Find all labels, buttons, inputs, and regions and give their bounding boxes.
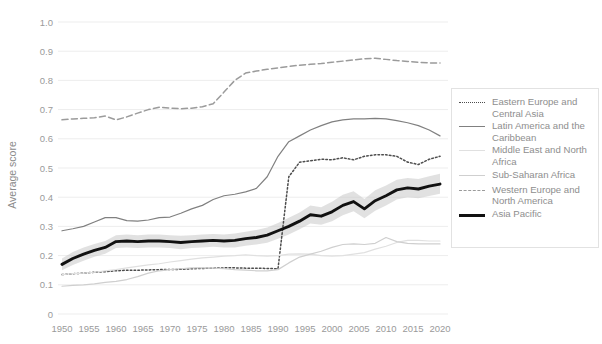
chart-container: 00.10.20.30.40.50.60.70.80.91.0 19501955… bbox=[0, 0, 602, 344]
legend-item-label: Middle East and North Africa bbox=[492, 144, 592, 167]
x-tick-label: 2020 bbox=[429, 323, 450, 334]
y-tick-label: 0.6 bbox=[40, 133, 53, 144]
y-tick-label: 0.9 bbox=[40, 46, 53, 57]
series-line-eastern-europe-and-central-asia bbox=[62, 155, 440, 275]
y-tick-label: 0.7 bbox=[40, 104, 53, 115]
legend-item[interactable]: Western Europe and North America bbox=[452, 184, 598, 207]
legend-item-label: Sub-Saharan Africa bbox=[492, 169, 592, 181]
data-series-group bbox=[62, 58, 440, 286]
legend-swatch-icon bbox=[459, 96, 485, 110]
y-tick-label: 0 bbox=[48, 309, 53, 320]
x-tick-label: 2010 bbox=[375, 323, 396, 334]
x-tick-label: 1970 bbox=[159, 323, 180, 334]
x-tick-label: 1960 bbox=[105, 323, 126, 334]
legend-item-label: Latin America and the Caribbean bbox=[492, 120, 592, 143]
legend-list: Eastern Europe and Central AsiaLatin Ame… bbox=[452, 89, 598, 223]
x-tick-label: 1965 bbox=[132, 323, 153, 334]
x-tick-label: 1980 bbox=[213, 323, 234, 334]
x-tick-label: 2005 bbox=[348, 323, 369, 334]
legend-item[interactable]: Asia Pacific bbox=[452, 208, 598, 222]
x-tick-label: 1955 bbox=[78, 323, 99, 334]
legend-swatch-icon bbox=[459, 120, 485, 134]
y-tick-label: 0.2 bbox=[40, 250, 53, 261]
legend-item[interactable]: Eastern Europe and Central Asia bbox=[452, 96, 598, 119]
x-axis-tick-labels: 1950195519601965197019751980198519901995… bbox=[51, 323, 450, 334]
series-line-western-europe-and-north-america bbox=[62, 58, 440, 120]
x-tick-label: 2000 bbox=[321, 323, 342, 334]
y-tick-label: 0.4 bbox=[40, 192, 53, 203]
y-tick-label: 0.5 bbox=[40, 163, 53, 174]
series-line-latin-america-and-the-caribbean bbox=[62, 118, 440, 230]
legend-item[interactable]: Latin America and the Caribbean bbox=[452, 120, 598, 143]
y-axis-title: Average score bbox=[6, 141, 18, 209]
legend-swatch-icon bbox=[459, 169, 485, 183]
legend-swatch-icon bbox=[459, 208, 485, 222]
chart-legend: Eastern Europe and Central AsiaLatin Ame… bbox=[451, 88, 599, 248]
legend-swatch-icon bbox=[459, 184, 485, 198]
x-tick-label: 2015 bbox=[402, 323, 423, 334]
x-tick-label: 1950 bbox=[51, 323, 72, 334]
legend-item-label: Eastern Europe and Central Asia bbox=[492, 96, 592, 119]
x-tick-label: 1990 bbox=[267, 323, 288, 334]
y-tick-label: 0.1 bbox=[40, 279, 53, 290]
x-tick-label: 1995 bbox=[294, 323, 315, 334]
legend-item[interactable]: Middle East and North Africa bbox=[452, 144, 598, 167]
x-tick-label: 1985 bbox=[240, 323, 261, 334]
legend-item-label: Western Europe and North America bbox=[492, 184, 592, 207]
y-axis-tick-labels: 00.10.20.30.40.50.60.70.80.91.0 bbox=[40, 17, 53, 320]
y-tick-label: 1.0 bbox=[40, 17, 53, 28]
series-line-asia-pacific bbox=[62, 184, 440, 264]
x-tick-label: 1975 bbox=[186, 323, 207, 334]
legend-item[interactable]: Sub-Saharan Africa bbox=[452, 169, 598, 183]
y-tick-label: 0.8 bbox=[40, 75, 53, 86]
y-tick-label: 0.3 bbox=[40, 221, 53, 232]
legend-item-label: Asia Pacific bbox=[492, 208, 592, 220]
legend-swatch-icon bbox=[459, 144, 485, 158]
